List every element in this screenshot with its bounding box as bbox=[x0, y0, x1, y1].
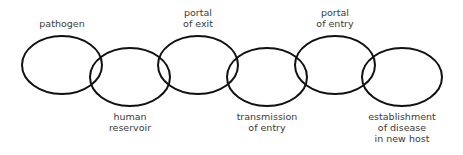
label-line: of disease bbox=[368, 122, 435, 133]
label-transmission-of-entry: transmission of entry bbox=[237, 111, 298, 133]
link-transmission-of-entry bbox=[227, 48, 307, 106]
label-line: portal bbox=[316, 7, 353, 18]
link-human-reservoir bbox=[90, 48, 170, 106]
link-establishment-of-disease bbox=[362, 48, 442, 106]
label-line: transmission bbox=[237, 111, 298, 122]
link-pathogen bbox=[22, 36, 102, 94]
label-line: of entry bbox=[237, 122, 298, 133]
label-line: portal bbox=[183, 7, 213, 18]
label-line: of exit bbox=[183, 18, 213, 29]
label-line: of entry bbox=[316, 18, 353, 29]
label-line: reservoir bbox=[109, 122, 151, 133]
label-line: establishment bbox=[368, 111, 435, 122]
label-human-reservoir: human reservoir bbox=[109, 111, 151, 133]
label-pathogen: pathogen bbox=[39, 18, 84, 29]
label-establishment-of-disease: establishment of disease in new host bbox=[368, 111, 435, 144]
label-portal-of-exit: portal of exit bbox=[183, 7, 213, 29]
label-portal-of-entry: portal of entry bbox=[316, 7, 353, 29]
label-line: in new host bbox=[368, 133, 435, 144]
label-line: pathogen bbox=[39, 18, 84, 29]
label-line: human bbox=[109, 111, 151, 122]
link-portal-of-exit bbox=[158, 36, 238, 94]
